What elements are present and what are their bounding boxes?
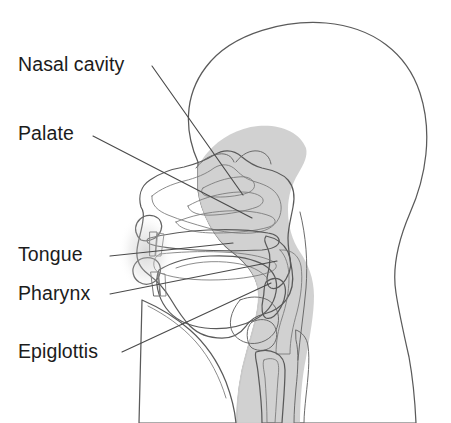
label-palate: Palate bbox=[18, 122, 74, 144]
anatomy-diagram: Nasal cavity Palate Tongue Pharynx Epigl… bbox=[0, 0, 451, 423]
label-pharynx: Pharynx bbox=[18, 282, 90, 304]
label-nasal-cavity: Nasal cavity bbox=[18, 53, 124, 75]
label-epiglottis: Epiglottis bbox=[18, 340, 98, 362]
label-tongue: Tongue bbox=[18, 243, 83, 265]
leader-epiglottis bbox=[122, 283, 271, 352]
diagram-canvas: Nasal cavity Palate Tongue Pharynx Epigl… bbox=[0, 0, 451, 423]
labels: Nasal cavity Palate Tongue Pharynx Epigl… bbox=[18, 53, 124, 362]
mandible bbox=[139, 300, 236, 423]
